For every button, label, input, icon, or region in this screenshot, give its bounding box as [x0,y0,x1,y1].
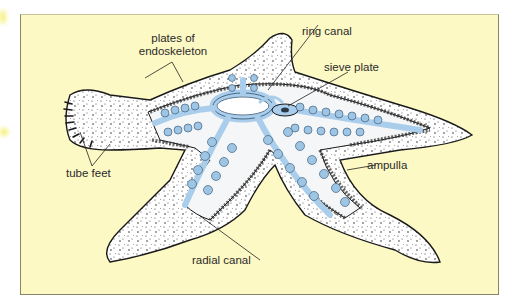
label-ampulla: ampulla [367,159,407,172]
sieve-plate-shape [272,104,298,116]
label-plates-of-endoskeleton: plates of endoskeleton [138,32,208,58]
label-plates-line2: endoskeleton [138,45,208,58]
label-sieve-plate: sieve plate [324,61,379,74]
starfish-diagram [0,0,513,299]
label-plates-line1: plates of [138,32,208,45]
label-radial-canal: radial canal [192,254,251,267]
label-tube-feet: tube feet [66,167,111,180]
label-ring-canal: ring canal [302,25,352,38]
